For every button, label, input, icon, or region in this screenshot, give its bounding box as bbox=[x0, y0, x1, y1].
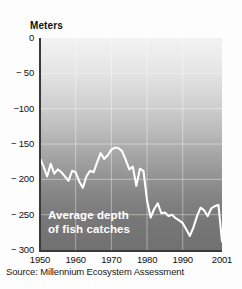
chart-annotation-line-1: Average depth bbox=[48, 209, 130, 223]
y-axis-title: Meters bbox=[30, 20, 63, 31]
x-axis-tick-label: 1980 bbox=[130, 254, 164, 265]
y-axis-tick-label: −100 bbox=[0, 103, 34, 114]
y-axis-tick-label: − 250 bbox=[0, 209, 34, 220]
source-caption: Source: Millennium Ecosystem Assessment bbox=[6, 266, 184, 277]
x-axis-tick-label: 1960 bbox=[59, 254, 93, 265]
y-axis-tick-label: − 150 bbox=[0, 138, 34, 149]
x-axis-tick-label: 1990 bbox=[166, 254, 200, 265]
x-axis-tick-label: 1970 bbox=[94, 254, 128, 265]
chart-figure: Meters 0− 50−100− 150− 200− 250− 300 195… bbox=[0, 0, 242, 289]
chart-annotation: Average depth of fish catches bbox=[48, 209, 130, 236]
y-axis-tick-label: 0 bbox=[0, 32, 34, 43]
x-axis-tick-label: 2001 bbox=[205, 254, 239, 265]
y-axis-line bbox=[39, 38, 41, 251]
x-axis-line bbox=[39, 250, 222, 252]
y-axis-tick-label: − 200 bbox=[0, 173, 34, 184]
y-axis-tick-label: − 50 bbox=[0, 67, 34, 78]
x-axis-tick-label: 1950 bbox=[23, 254, 57, 265]
chart-annotation-line-2: of fish catches bbox=[48, 223, 130, 237]
